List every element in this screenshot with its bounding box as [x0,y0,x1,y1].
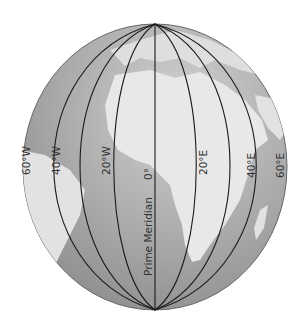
globe-figure: 60°W 40°W 20°W 0° Prime Meridian 20°E 40… [0,0,302,329]
label-60w: 60°W [20,145,32,175]
label-40w: 40°W [50,145,62,175]
label-20w: 20°W [100,145,112,175]
label-0: 0° [142,168,154,180]
label-prime-meridian: Prime Meridian [142,197,154,276]
label-20e: 20°E [197,150,209,175]
label-40e: 40°E [245,153,257,178]
label-60e: 60°E [274,153,286,178]
